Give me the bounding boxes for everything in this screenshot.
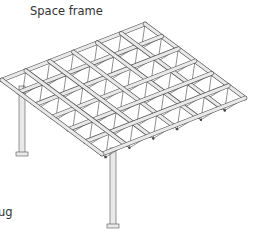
space-frame-diagram: Space frame ug: [0, 0, 255, 247]
space-frame-illustration: [0, 0, 255, 247]
